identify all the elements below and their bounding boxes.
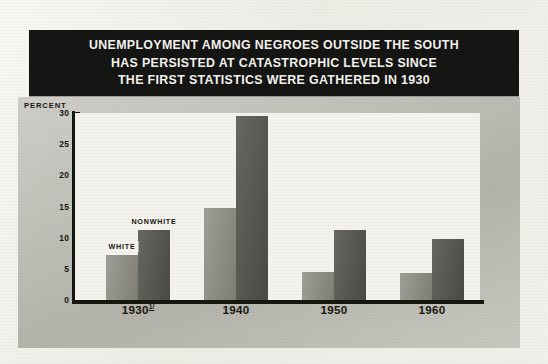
y-tick-label: 0: [18, 295, 72, 305]
y-tick-value: 25: [59, 139, 72, 149]
y-tick-value: 30: [59, 108, 72, 118]
chart-page: UNEMPLOYMENT AMONG NEGROES OUTSIDE THE S…: [0, 0, 548, 364]
y-tick-value: 0: [64, 295, 72, 305]
y-tick-value: 10: [59, 233, 72, 243]
y-tick-label: 10: [18, 233, 72, 243]
bar-1960-white: [400, 273, 432, 300]
y-tick-value: 20: [59, 170, 72, 180]
y-tick-label: 5: [18, 264, 72, 274]
y-tick-value: 15: [59, 202, 72, 212]
x-tick-label-1950: 1950: [321, 303, 348, 316]
bar-1950-white: [302, 272, 334, 300]
x-tick-year: 1930: [122, 303, 149, 316]
y-tick-label: 30: [18, 108, 72, 118]
bar-1940-white: [204, 208, 236, 300]
y-tick-label: 15: [18, 202, 72, 212]
title-line-2: HAS PERSISTED AT CATASTROPHIC LEVELS SIN…: [111, 55, 437, 71]
title-line-3: THE FIRST STATISTICS WERE GATHERED IN 19…: [118, 72, 430, 88]
y-tick-value: 5: [64, 264, 72, 274]
bar-1940-nonwhite: [236, 116, 268, 300]
y-tick-label: 25: [18, 139, 72, 149]
y-tick-label: 20: [18, 170, 72, 180]
bar-1930-nonwhite: [138, 230, 170, 300]
bar-1930-white: [106, 255, 138, 300]
x-tick-label-1960: 1960: [419, 303, 446, 316]
callout-white: WHITE: [106, 241, 139, 252]
x-tick-footnote-marker: 1/: [149, 303, 155, 310]
callout-nonwhite: NONWHITE: [128, 216, 179, 227]
x-tick-label-1940: 1940: [223, 303, 250, 316]
bar-1960-nonwhite: [432, 239, 464, 300]
bar-1950-nonwhite: [334, 230, 366, 300]
plot-area: WHITENONWHITE: [75, 113, 480, 300]
chart-panel: PERCENT 302520151050 WHITENONWHITE 19301…: [18, 97, 520, 348]
x-tick-label-1930: 19301/: [122, 303, 155, 316]
title-line-1: UNEMPLOYMENT AMONG NEGROES OUTSIDE THE S…: [89, 37, 459, 53]
title-banner: UNEMPLOYMENT AMONG NEGROES OUTSIDE THE S…: [29, 30, 519, 96]
